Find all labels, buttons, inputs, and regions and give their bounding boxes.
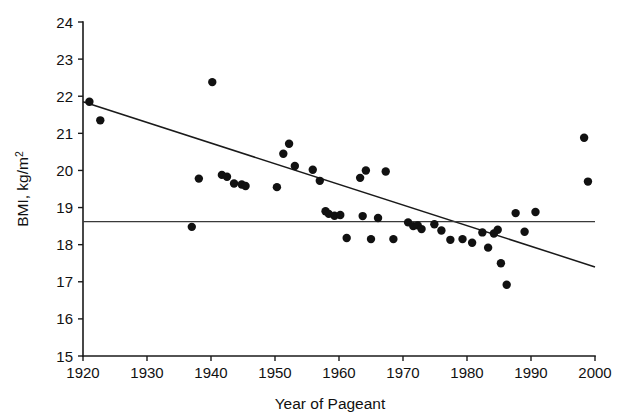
y-tick-label-16: 16 [56,310,73,327]
data-point [285,140,293,148]
svg-text:BMI, kg/m2: BMI, kg/m2 [13,151,31,227]
data-point [374,214,382,222]
y-tick-label-15: 15 [56,348,73,365]
y-axis-title-exponent: 2 [13,151,25,157]
chart-figure: 1516171819202122232419201930194019501960… [0,0,630,419]
y-tick-label-18: 18 [56,236,73,253]
data-points [85,78,592,289]
data-point [478,228,486,236]
data-point [417,225,425,233]
y-tick-label-20: 20 [56,162,73,179]
data-point [437,226,445,234]
trend-lines [83,102,595,267]
data-point [188,223,196,231]
data-point [389,235,397,243]
tick-marks [78,22,595,361]
data-point [520,227,528,235]
x-tick-label-2000: 2000 [578,364,611,381]
x-tick-label-1940: 1940 [194,364,227,381]
y-tick-label-19: 19 [56,199,73,216]
y-tick-label-24: 24 [56,14,73,31]
data-point [497,259,505,267]
data-point [358,212,366,220]
data-point [502,281,510,289]
x-tick-label-1970: 1970 [386,364,419,381]
scatter-plot: 1516171819202122232419201930194019501960… [0,0,630,419]
data-point [291,162,299,170]
x-tick-label-1920: 1920 [66,364,99,381]
regression-line [83,102,595,267]
data-point [531,208,539,216]
x-tick-label-1990: 1990 [514,364,547,381]
x-axis-title: Year of Pageant [275,395,386,412]
x-tick-label-1960: 1960 [322,364,355,381]
y-tick-label-22: 22 [56,88,73,105]
x-tick-label-1950: 1950 [258,364,291,381]
data-point [195,174,203,182]
data-point [342,234,350,242]
y-axis-title: BMI, kg/m2 [13,151,31,227]
data-point [279,150,287,158]
data-point [223,173,231,181]
data-point [484,243,492,251]
data-point [273,183,281,191]
x-tick-label-1980: 1980 [450,364,483,381]
x-tick-label-1930: 1930 [130,364,163,381]
y-tick-label-17: 17 [56,273,73,290]
data-point [382,167,390,175]
data-point [316,177,324,185]
y-tick-label-21: 21 [56,125,73,142]
data-point [241,182,249,190]
data-point [511,209,519,217]
data-point [446,236,454,244]
data-point [430,220,438,228]
data-point [230,179,238,187]
y-axis-title-text: BMI, kg/m [14,157,31,227]
data-point [580,134,588,142]
data-point [494,226,502,234]
data-point [468,239,476,247]
y-tick-label-23: 23 [56,51,73,68]
tick-labels: 1516171819202122232419201930194019501960… [56,14,611,382]
axes [83,22,595,356]
data-point [85,98,93,106]
data-point [309,166,317,174]
data-point [356,174,364,182]
data-point [458,235,466,243]
data-point [208,78,216,86]
data-point [584,177,592,185]
data-point [336,211,344,219]
data-point [96,116,104,124]
data-point [367,235,375,243]
data-point [362,166,370,174]
